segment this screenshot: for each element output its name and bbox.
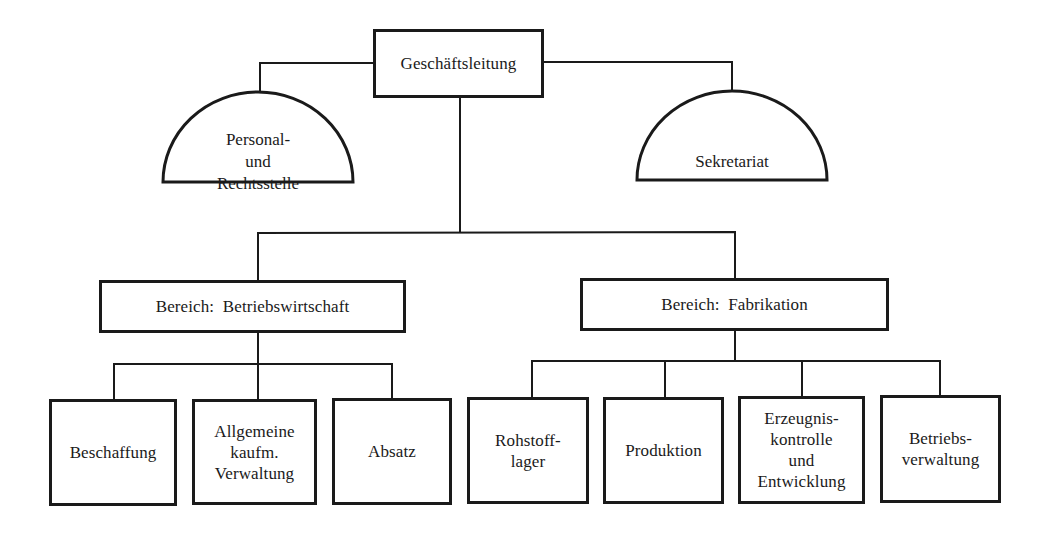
department-rohstofflager: Rohstoff- lager xyxy=(467,397,589,504)
node-label: Sekretariat xyxy=(695,152,769,171)
node-label: Bereich: Fabrikation xyxy=(661,294,808,315)
department-produktion: Produktion xyxy=(603,397,724,504)
staff-sekretariat: Sekretariat xyxy=(637,129,827,173)
department-beschaffung: Beschaffung xyxy=(49,399,177,506)
node-geschaeftsleitung: Geschäftsleitung xyxy=(373,29,544,98)
department-betriebsverwaltung: Betriebs- verwaltung xyxy=(880,395,1001,503)
connector-right-department-bar xyxy=(532,361,940,397)
connector-root-personal xyxy=(260,63,373,92)
node-label: Geschäftsleitung xyxy=(401,53,517,74)
division-betriebswirtschaft: Bereich: Betriebswirtschaft xyxy=(99,280,406,333)
node-label: Beschaffung xyxy=(70,442,157,463)
node-label: Rohstoff- lager xyxy=(495,430,561,472)
node-label: Allgemeine kaufm. Verwaltung xyxy=(214,421,294,484)
connector-left-department-bar xyxy=(114,364,392,399)
node-label: Erzeugnis- kontrolle und Entwicklung xyxy=(758,408,846,492)
department-erzeugniskontrolle-entwicklung: Erzeugnis- kontrolle und Entwicklung xyxy=(738,396,865,504)
node-label: Produktion xyxy=(625,440,702,461)
staff-personal-rechtsstelle: Personal- und Rechtsstelle xyxy=(163,107,353,195)
org-chart: Geschäftsleitung Personal- und Rechtsste… xyxy=(0,0,1052,534)
node-label: Bereich: Betriebswirtschaft xyxy=(156,296,350,317)
connector-division-bar xyxy=(258,232,735,281)
node-label: Betriebs- verwaltung xyxy=(902,428,979,470)
department-absatz: Absatz xyxy=(332,398,452,505)
department-allgemeine-kaufm-verwaltung: Allgemeine kaufm. Verwaltung xyxy=(192,399,317,505)
node-label: Personal- und Rechtsstelle xyxy=(217,130,299,193)
node-label: Absatz xyxy=(368,441,416,462)
connector-root-sekretariat xyxy=(543,62,732,91)
division-fabrikation: Bereich: Fabrikation xyxy=(580,278,889,331)
